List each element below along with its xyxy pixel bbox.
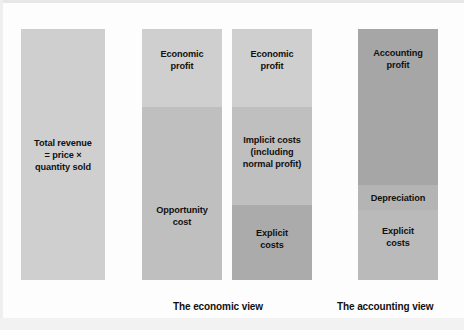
economic-opportunity-column: Economic profitOpportunity cost <box>142 29 222 280</box>
page-edge-left <box>0 0 3 330</box>
page-edge-bottom <box>0 318 464 330</box>
accounting-profit-segment: Accounting profit <box>358 29 438 185</box>
total-revenue-column: Total revenue = price × quantity sold <box>21 29 105 280</box>
explicit-costs-segment: Explicit costs <box>232 205 312 280</box>
depreciation-segment: Depreciation <box>358 185 438 210</box>
economic-profit-segment: Economic profit <box>232 29 312 107</box>
economic-profit-segment: Economic profit <box>142 29 222 107</box>
total-revenue-segment: Total revenue = price × quantity sold <box>21 29 105 280</box>
explicit-costs-segment: Explicit costs <box>358 210 438 280</box>
segment-label: Explicit costs <box>380 225 416 249</box>
segment-label: Explicit costs <box>254 227 290 251</box>
segment-label: Economic profit <box>248 48 295 72</box>
segment-label: Opportunity cost <box>154 204 209 228</box>
segment-label: Economic profit <box>158 48 205 72</box>
segment-label: Depreciation <box>369 192 427 204</box>
economic-view-caption: The economic view <box>173 300 263 313</box>
segment-label: Implicit costs (including normal profit) <box>241 134 303 170</box>
accounting-view-caption: The accounting view <box>337 300 433 313</box>
opportunity-cost-segment: Opportunity cost <box>142 107 222 280</box>
economic-breakdown-column: Economic profitImplicit costs (including… <box>232 29 312 280</box>
implicit-costs-segment: Implicit costs (including normal profit) <box>232 107 312 205</box>
profit-comparison-diagram: Total revenue = price × quantity soldEco… <box>0 0 464 330</box>
accounting-column: Accounting profitDepreciationExplicit co… <box>358 29 438 280</box>
segment-label: Total revenue = price × quantity sold <box>32 137 94 173</box>
page-edge-top <box>0 0 464 3</box>
segment-label: Accounting profit <box>371 47 425 71</box>
